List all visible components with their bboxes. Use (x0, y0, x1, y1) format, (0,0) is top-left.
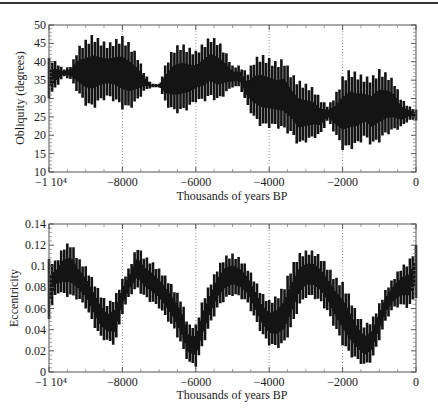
y-tick-label: 45 (34, 36, 46, 50)
x-tick-label: −4000 (254, 175, 285, 189)
y-tick-label: 0.08 (25, 280, 46, 294)
x-tick-label: 0 (413, 175, 419, 189)
y-tick-label: 0.14 (25, 217, 46, 231)
x-tick-label: −1 10⁴ (35, 375, 67, 389)
y-tick-label: 50 (34, 18, 46, 32)
series-bars (49, 35, 416, 150)
y-tick-label: 0.02 (25, 344, 46, 358)
y-tick-label: 15 (34, 147, 46, 161)
x-tick-label: −8000 (107, 375, 138, 389)
y-tick-label: 0.04 (25, 323, 46, 337)
y-tick-label: 20 (34, 128, 46, 142)
y-tick-label: 35 (34, 73, 46, 87)
x-tick-label: −4000 (254, 375, 285, 389)
y-tick-label: 0.12 (25, 238, 46, 252)
y-tick-label: 25 (34, 110, 46, 124)
x-tick-label: −6000 (180, 375, 211, 389)
x-tick-label: −2000 (327, 175, 358, 189)
obliquity-plot: 504540353025201510 −1 10⁴−8000−6000−4000… (13, 18, 419, 203)
x-tick-label: −8000 (107, 175, 138, 189)
chart-canvas: 504540353025201510 −1 10⁴−8000−6000−4000… (0, 0, 438, 416)
obliquity-y-axis-title: Obliquity (degrees) (13, 51, 27, 145)
y-tick-label: 0.1 (31, 259, 46, 273)
y-tick-label: 0.06 (25, 302, 46, 316)
eccentricity-plot: 0.140.120.10.080.060.040.020 −1 10⁴−8000… (7, 217, 419, 402)
x-tick-label: −2000 (327, 375, 358, 389)
eccentricity-x-axis-title: Thousands of years BP (177, 388, 288, 402)
x-tick-label: −6000 (180, 175, 211, 189)
obliquity-x-axis-title: Thousands of years BP (177, 189, 288, 203)
eccentricity-series (49, 244, 416, 367)
obliquity-series (49, 35, 416, 150)
y-tick-label: 30 (34, 92, 46, 106)
x-tick-label: −1 10⁴ (35, 175, 67, 189)
eccentricity-y-axis-title: Eccentricity (7, 269, 21, 327)
y-tick-label: 40 (34, 55, 46, 69)
x-tick-label: 0 (413, 375, 419, 389)
